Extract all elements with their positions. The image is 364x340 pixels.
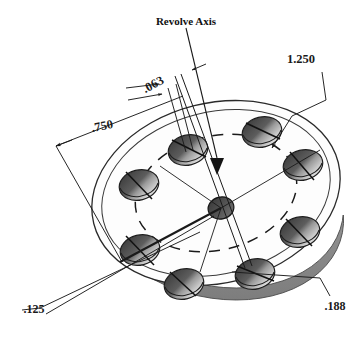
cad-drawing-svg: Revolve Axis 1.250 .063 .750 .125 .188 [0,0,364,340]
dimension-label-188: .188 [325,299,346,313]
dimension-label-125: .125 [24,302,45,316]
dimension-label-063: .063 [140,73,166,96]
dimension-label-750: .750 [90,117,114,135]
revolve-axis-label: Revolve Axis [156,15,217,27]
disc-body [72,75,360,311]
technical-drawing-canvas: Revolve Axis 1.250 .063 .750 .125 .188 [0,0,364,340]
dimension-label-1250: 1.250 [287,52,315,66]
